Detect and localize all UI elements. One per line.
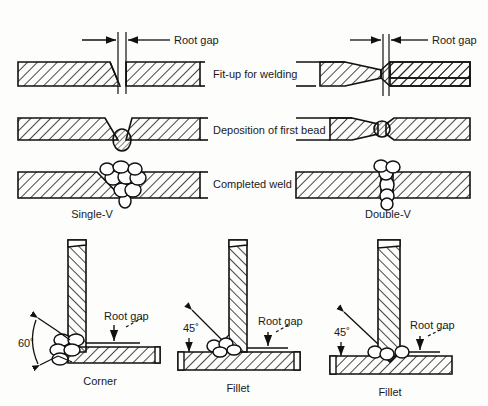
bead-cap-2 (113, 161, 129, 173)
plate-right-4 (393, 172, 470, 198)
corner-bead-4 (64, 344, 80, 356)
caption-fillet-1: Fillet (226, 382, 249, 394)
root-gap-label: Root gap (174, 34, 219, 46)
corner-horizontal-plate-break (155, 347, 160, 363)
caption-corner: Corner (83, 375, 117, 387)
plate-left-2 (18, 118, 118, 140)
bead-cap-1 (100, 163, 114, 175)
fillet2-angle-label: 45˚ (334, 326, 350, 338)
angle-label-60: 60˚ (18, 337, 34, 349)
fillet2-vertical-plate-bevelled (378, 240, 400, 362)
fillet2-vertical-break (378, 240, 400, 248)
fillet1-bead-4 (227, 345, 241, 355)
fillet1-base-break-right (294, 352, 300, 370)
first-bead-root-pass (113, 129, 131, 151)
row-label-completed: Completed weld (213, 178, 292, 190)
root-gap-label-2: Root gap (432, 34, 477, 46)
caption-fillet-2: Fillet (378, 386, 401, 398)
fillet2-bead-3 (395, 346, 409, 358)
plate-right-bevelled (126, 62, 200, 86)
row-label-firstbead: Deposition of first bead (213, 124, 326, 136)
plate-left-4 (296, 172, 381, 198)
plate-right-bevel-2 (386, 118, 470, 140)
fillet2-root-gap-label: Root gap (410, 319, 455, 331)
fillet2-base-break-left (330, 356, 336, 374)
row-label-fitup: Fit-up for welding (213, 68, 297, 80)
fillet2-bead-2 (380, 348, 394, 360)
caption-double-v: Double-V (365, 208, 412, 220)
fillet1-root-gap-label: Root gap (258, 315, 303, 327)
fillet1-base-break-left (178, 352, 184, 370)
caption-single-v: Single-V (71, 208, 113, 220)
bead-cap-3 (128, 163, 142, 175)
plate-right-2 (126, 118, 200, 140)
fillet1-bead-3 (213, 347, 227, 357)
fillet1-vertical-break (229, 240, 247, 247)
plate-left (18, 62, 120, 86)
corner-vertical-plate-break (68, 240, 86, 247)
corner-horizontal-plate (68, 347, 160, 363)
plate-right-body (381, 62, 470, 86)
fillet1-vertical-plate (229, 240, 247, 352)
figure-canvas: Root gap Fit-up for welding Root gap (0, 0, 488, 406)
first-bead-root-pass-2 (374, 121, 390, 137)
welding-joints-figure: Root gap Fit-up for welding Root gap (0, 0, 488, 406)
fillet2-weld-beads (368, 346, 409, 360)
bead-cap-upper-2 (386, 161, 400, 173)
fillet1-angle-label: 45˚ (183, 322, 199, 334)
corner-root-gap-label: Root gap (104, 310, 149, 322)
fillet1-base-plate (178, 352, 300, 370)
